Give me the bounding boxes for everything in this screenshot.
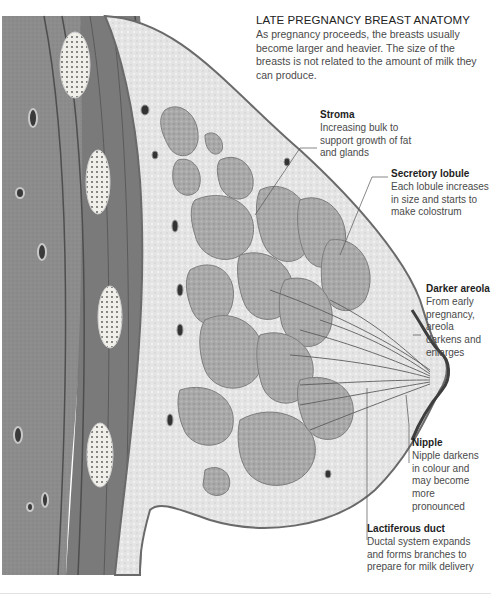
label-heading: Stroma [320, 109, 430, 122]
label-heading: Darker areola [426, 283, 491, 296]
bottom-divider [0, 593, 491, 594]
breast-anatomy-illustration [0, 0, 491, 607]
label-darker-areola: Darker areola From early pregnancy, areo… [426, 283, 491, 360]
label-text: Ductal system expands and forms branches… [367, 536, 474, 573]
label-heading: Secretory lobule [391, 168, 491, 181]
label-text: Nipple darkens in colour and may become … [412, 450, 479, 512]
label-heading: Nipple [412, 437, 487, 450]
diagram-title: LATE PREGNANCY BREAST ANATOMY [256, 14, 470, 26]
label-stroma: Stroma Increasing bulk to support growth… [320, 109, 430, 160]
label-text: Each lobule increases in size and starts… [391, 181, 489, 218]
label-lactiferous-duct: Lactiferous duct Ductal system expands a… [367, 523, 487, 574]
label-text: From early pregnancy, areola darkens and… [426, 296, 481, 358]
diagram-intro: As pregnancy proceeds, the breasts usual… [256, 28, 481, 82]
label-text: Increasing bulk to support growth of fat… [320, 122, 411, 159]
label-secretory-lobule: Secretory lobule Each lobule increases i… [391, 168, 491, 219]
label-nipple: Nipple Nipple darkens in colour and may … [412, 437, 487, 514]
label-heading: Lactiferous duct [367, 523, 487, 536]
